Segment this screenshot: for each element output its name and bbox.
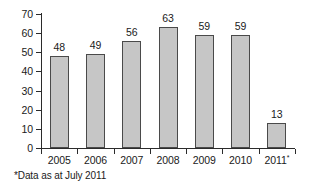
x-category-label: 2005 [41,155,77,166]
bar-value-label: 48 [43,42,75,53]
x-category-label: 2007 [114,155,150,166]
x-category-label: 2006 [77,155,113,166]
x-tick-mark [259,149,260,154]
x-axis-line [41,148,295,149]
footnote-marker: * [287,154,290,161]
bar-value-label: 49 [79,40,111,51]
y-tick-label: 0 [3,143,33,154]
x-tick-mark [114,149,115,154]
x-category-label: 2008 [150,155,186,166]
y-tick-label: 70 [3,9,33,20]
bar-value-label: 63 [152,13,184,24]
y-tick-label: 20 [3,105,33,116]
bar-2009[interactable] [195,35,214,148]
bar-value-label: 13 [261,109,293,120]
x-tick-mark [150,149,151,154]
x-tick-mark [41,149,42,154]
y-tick-label: 30 [3,86,33,97]
y-tick-label: 10 [3,124,33,135]
footnote-note: *Data as at July 2011 [14,170,106,182]
x-category-label: 2011* [259,155,295,166]
bar-2010[interactable] [231,35,250,148]
bar-value-label: 56 [116,27,148,38]
y-tick-label: 60 [3,28,33,39]
x-category-label: 2010 [222,155,258,166]
y-tick-label: 50 [3,47,33,58]
bar-2005[interactable] [50,56,69,148]
x-tick-mark [222,149,223,154]
y-tick-label: 40 [3,66,33,77]
bar-2006[interactable] [86,54,105,148]
x-tick-mark [295,149,296,154]
bar-value-label: 59 [188,21,220,32]
x-tick-mark [186,149,187,154]
bar-chart-figure: 706050403020100 200520062007200820092010… [0,0,311,192]
bar-2007[interactable] [122,41,141,148]
plot-area [41,14,295,148]
bar-value-label: 59 [225,21,257,32]
bar-2008[interactable] [159,27,178,148]
x-category-label: 2009 [186,155,222,166]
x-tick-mark [77,149,78,154]
bar-2011[interactable] [267,123,286,148]
